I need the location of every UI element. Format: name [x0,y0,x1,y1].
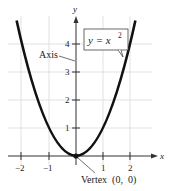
axis-leader-line [59,56,75,61]
vertex-label: Vertex (0, 0) [81,174,136,186]
parabola-chart: y = x 2 Axis Vertex (0, 0) y x −2 −1 1 2… [0,0,177,191]
y-tick-label: 3 [65,67,70,77]
x-axis-arrow-icon [151,154,158,159]
x-tick-label: −2 [15,163,25,173]
vertex-leader-line [78,158,95,173]
equation-label: y = x [87,34,111,46]
y-tick-label: 1 [65,123,70,133]
y-tick-label: 2 [65,95,70,105]
axis-label: Axis [39,49,58,60]
y-axis-arrow-icon [74,16,79,23]
y-axis [72,16,80,165]
equation-exponent: 2 [118,31,122,40]
x-tick-label: 1 [101,163,106,173]
y-tick-label: 4 [65,39,70,49]
y-axis-label: y [72,4,77,14]
x-axis-label: x [159,151,164,161]
x-tick-label: −1 [43,163,53,173]
vertex-point [73,153,78,158]
x-tick-label: 2 [128,163,133,173]
